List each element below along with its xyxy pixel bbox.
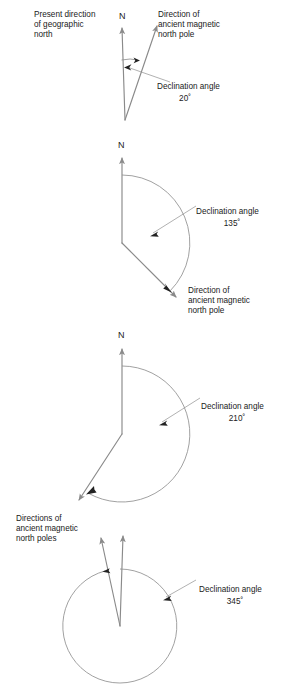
label-ancient-pole-135-line1: Direction of bbox=[188, 286, 230, 295]
ancient-magnetic-north-arrow-345 bbox=[101, 538, 120, 626]
label-ancient-pole-20-line3: north pole bbox=[158, 30, 195, 39]
panel-declination-345: Directions of ancient magnetic north pol… bbox=[16, 514, 262, 683]
label-ancient-pole-20-line2: ancient magnetic bbox=[158, 20, 220, 29]
label-ancient-pole-135-line3: north pole bbox=[188, 306, 225, 315]
label-declination-angle-135: Declination angle bbox=[196, 207, 259, 216]
value-declination-20: 20˚ bbox=[179, 93, 191, 103]
label-ancient-poles-345-line1: Directions of bbox=[16, 514, 62, 523]
geographic-north-arrow-345 bbox=[120, 536, 123, 626]
declination-leader-210 bbox=[162, 398, 200, 422]
declination-arc-arrowhead-20 bbox=[134, 58, 141, 64]
label-declination-angle-210: Declination angle bbox=[201, 402, 264, 411]
declination-leader-135 bbox=[153, 206, 196, 233]
label-declination-angle-20: Declination angle bbox=[157, 82, 220, 91]
label-present-geographic-north-line3: north bbox=[34, 30, 53, 39]
declination-arc-210 bbox=[88, 366, 190, 502]
declination-diagram-svg: Present direction of geographic north N … bbox=[0, 0, 300, 694]
ancient-magnetic-north-arrow-210 bbox=[79, 434, 122, 500]
label-ancient-pole-135-line2: ancient magnetic bbox=[188, 296, 250, 305]
label-north-marker-20: N bbox=[119, 11, 126, 21]
label-present-geographic-north-line2: of geographic bbox=[34, 20, 84, 29]
declination-figure: Present direction of geographic north N … bbox=[0, 0, 300, 694]
declination-leader-20 bbox=[127, 67, 170, 82]
panel-declination-210: N Declination angle 210˚ bbox=[79, 330, 264, 502]
geographic-north-arrow-20 bbox=[122, 28, 125, 120]
declination-arc-arrowhead-345 bbox=[102, 568, 110, 573]
declination-arc-arrowhead-135 bbox=[163, 283, 171, 292]
declination-leader-arrowhead-20 bbox=[124, 64, 132, 70]
label-ancient-pole-20-line1: Direction of bbox=[158, 10, 200, 19]
value-declination-345: 345˚ bbox=[227, 596, 244, 606]
value-declination-135: 135˚ bbox=[224, 218, 241, 228]
label-present-geographic-north-line1: Present direction bbox=[34, 10, 96, 19]
ancient-magnetic-north-arrow-20 bbox=[125, 26, 157, 120]
label-north-marker-135: N bbox=[118, 140, 125, 150]
panel-declination-135: N Declination angle 135˚ Direction of an… bbox=[118, 140, 259, 315]
declination-leader-345 bbox=[166, 580, 196, 597]
value-declination-210: 210˚ bbox=[229, 413, 246, 423]
label-north-marker-210: N bbox=[118, 330, 125, 340]
label-ancient-poles-345-line3: north poles bbox=[16, 534, 57, 543]
label-declination-angle-345: Declination angle bbox=[199, 585, 262, 594]
label-ancient-poles-345-line2: ancient magnetic bbox=[16, 524, 78, 533]
panel-declination-20: Present direction of geographic north N … bbox=[34, 10, 220, 120]
